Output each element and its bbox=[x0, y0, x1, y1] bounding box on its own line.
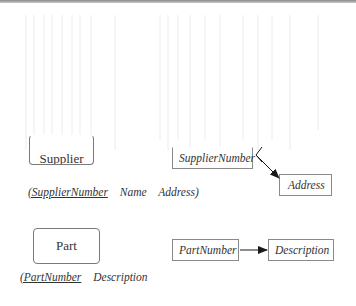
entity-supplier-label: Supplier bbox=[39, 151, 83, 165]
attribute-address-label: Address bbox=[288, 179, 325, 191]
attribute-supplier-number-label: SupplierNumber bbox=[179, 152, 255, 164]
relation-schema-supplier: (SupplierNumber Name Address) bbox=[28, 186, 208, 198]
supplier-number-to-address-arrow bbox=[256, 147, 279, 178]
top-border-rule bbox=[0, 0, 356, 3]
attribute-part-number: PartNumber bbox=[172, 239, 239, 261]
attribute-supplier-number: SupplierNumber bbox=[172, 147, 253, 169]
part-attr-description: Description bbox=[93, 271, 147, 283]
entity-part-label: Part bbox=[56, 238, 77, 254]
attribute-description: Description bbox=[268, 239, 334, 261]
supplier-attr-name: Name bbox=[120, 186, 147, 198]
entity-supplier: Supplier bbox=[29, 135, 94, 165]
attribute-address: Address bbox=[279, 174, 332, 196]
supplier-primary-key: (SupplierNumber bbox=[28, 186, 108, 198]
attribute-part-number-label: PartNumber bbox=[179, 244, 237, 256]
supplier-attr-address: Address) bbox=[158, 186, 198, 198]
entity-part: Part bbox=[33, 228, 100, 264]
part-primary-key: (PartNumber bbox=[20, 271, 81, 283]
relation-schema-part: (PartNumber Description bbox=[20, 271, 157, 283]
attribute-description-label: Description bbox=[275, 244, 329, 256]
